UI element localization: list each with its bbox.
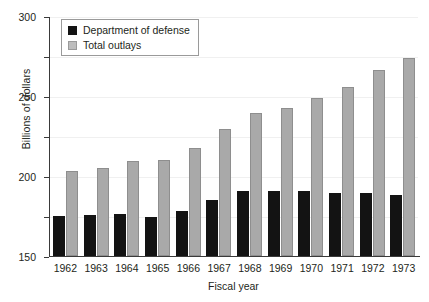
bar-dod [298,191,310,256]
bar-dod [145,217,157,256]
bar-group [203,17,234,256]
bar-total [281,108,293,256]
y-axis-tick: 0 [44,257,49,258]
x-axis-tick-label: 1970 [296,262,327,274]
y-axis-tick: 200 [44,97,49,98]
bar-group [234,17,265,256]
x-axis-line [49,256,420,257]
x-axis-tick-label: 1962 [50,262,81,274]
bar-dod [390,195,402,256]
y-axis-tick: 150 [44,137,49,138]
bar-total [250,113,262,256]
y-axis-tick: 300 [44,17,49,18]
bar-group [326,17,357,256]
bar-total [403,58,415,256]
y-axis-tick-label: 300 [18,11,36,23]
x-axis-tick-label: 1963 [81,262,112,274]
legend-swatch-icon-dod [68,26,77,35]
legend-item-dod: Department of defense [68,24,190,36]
bar-total [66,171,78,256]
bar-dod [206,200,218,256]
bar-total [373,70,385,256]
bar-total [311,98,323,256]
bar-dod [329,193,341,256]
bar-group [357,17,388,256]
bar-dod [53,216,65,256]
x-axis-tick-label: 1968 [235,262,266,274]
bar-dod [237,191,249,256]
bar-dod [268,191,280,256]
y-axis-tick: 250 [44,57,49,58]
bar-group [265,17,296,256]
legend: Department of defense Total outlays [61,19,199,56]
y-axis-tick-label: 250 [18,91,36,103]
bar-total [342,87,354,256]
x-axis-tick-label: 1966 [173,262,204,274]
bar-group [387,17,418,256]
bar-total [189,148,201,256]
legend-label-total: Total outlays [83,39,141,51]
bar-total [219,129,231,256]
x-axis-tick-label: 1972 [358,262,389,274]
x-axis-tick-label: 1969 [265,262,296,274]
bar-dod [114,214,126,256]
y-axis-tick-label: 200 [18,171,36,183]
bar-dod [176,211,188,256]
bar-dod [84,215,96,256]
bar-total [158,160,170,256]
legend-swatch-icon-total [68,41,77,50]
x-axis-tick-label: 1965 [142,262,173,274]
bar-total [97,168,109,256]
x-axis-tick-labels: 1962196319641965196619671968196919701971… [50,262,419,274]
y-axis-tick-label: 150 [18,251,36,263]
bar-total [127,161,139,256]
bar-dod [360,193,372,256]
x-axis-tick-label: 1967 [204,262,235,274]
legend-item-total: Total outlays [68,39,190,51]
y-axis-tick: 50 [44,217,49,218]
x-axis-tick-label: 1971 [327,262,358,274]
x-axis-tick-label: 1973 [388,262,419,274]
y-axis-title: Billions of dollars [20,29,32,189]
bar-group [295,17,326,256]
legend-label-dod: Department of defense [83,24,190,36]
y-axis-tick: 100 [44,177,49,178]
x-axis-title: Fiscal year [49,280,418,292]
x-axis-tick-label: 1964 [112,262,143,274]
bar-chart: Billions of dollars 050100150200250300 1… [0,0,429,302]
